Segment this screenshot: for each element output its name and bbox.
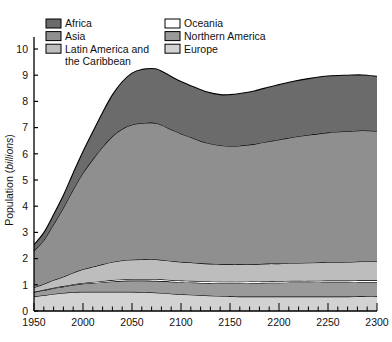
svg-text:Population (billions): Population (billions)	[3, 134, 15, 226]
legend-label: Latin America and	[65, 43, 149, 55]
y-tick-label: 8	[22, 95, 28, 107]
x-tick-label: 2000	[71, 316, 95, 328]
y-tick-label: 7	[22, 121, 28, 133]
legend-item-oceania: Oceania	[165, 17, 223, 29]
x-tick-label: 2200	[267, 316, 291, 328]
y-tick-label: 3	[22, 226, 28, 238]
legend-item-asia: Asia	[46, 30, 86, 42]
y-tick-label: 9	[22, 69, 28, 81]
x-tick-label: 1950	[22, 316, 46, 328]
x-tick-label: 2250	[316, 316, 340, 328]
legend-item-africa: Africa	[46, 17, 92, 29]
y-axis-title: Population (billions)	[3, 134, 15, 226]
x-tick-label: 2150	[218, 316, 242, 328]
legend-label: Europe	[184, 43, 218, 55]
y-axis-title-tail: )	[3, 134, 15, 138]
legend-swatch	[165, 19, 180, 28]
legend-swatch	[46, 44, 61, 53]
legend-label: Northern America	[184, 30, 266, 42]
y-tick-label: 10	[16, 43, 28, 55]
y-tick-label: 4	[22, 200, 28, 212]
legend-label: Asia	[65, 30, 86, 42]
x-tick-label: 2050	[120, 316, 144, 328]
legend-label: Oceania	[184, 17, 223, 29]
x-tick-label: 2100	[169, 316, 193, 328]
y-axis-title-plain: Population (	[3, 169, 15, 226]
y-tick-label: 6	[22, 148, 28, 160]
y-tick-label: 5	[22, 174, 28, 186]
x-tick-label: 2300	[365, 316, 389, 328]
legend-swatch	[165, 44, 180, 53]
chart-figure: 0123456789101950200020502100215022002250…	[0, 0, 392, 342]
legend-item-europe: Europe	[165, 43, 218, 55]
legend-item-northern-america: Northern America	[165, 30, 266, 42]
legend-swatch	[165, 32, 180, 41]
legend-swatch	[46, 32, 61, 41]
legend-label-continued: the Caribbean	[65, 55, 131, 67]
y-tick-label: 1	[22, 279, 28, 291]
y-tick-label: 2	[22, 252, 28, 264]
population-stacked-area-chart: 0123456789101950200020502100215022002250…	[0, 0, 392, 342]
legend-label: Africa	[65, 17, 92, 29]
y-axis-title-italic: billions	[3, 137, 15, 170]
legend-swatch	[46, 19, 61, 28]
legend-item-latin-america-and: Latin America and	[46, 43, 149, 55]
